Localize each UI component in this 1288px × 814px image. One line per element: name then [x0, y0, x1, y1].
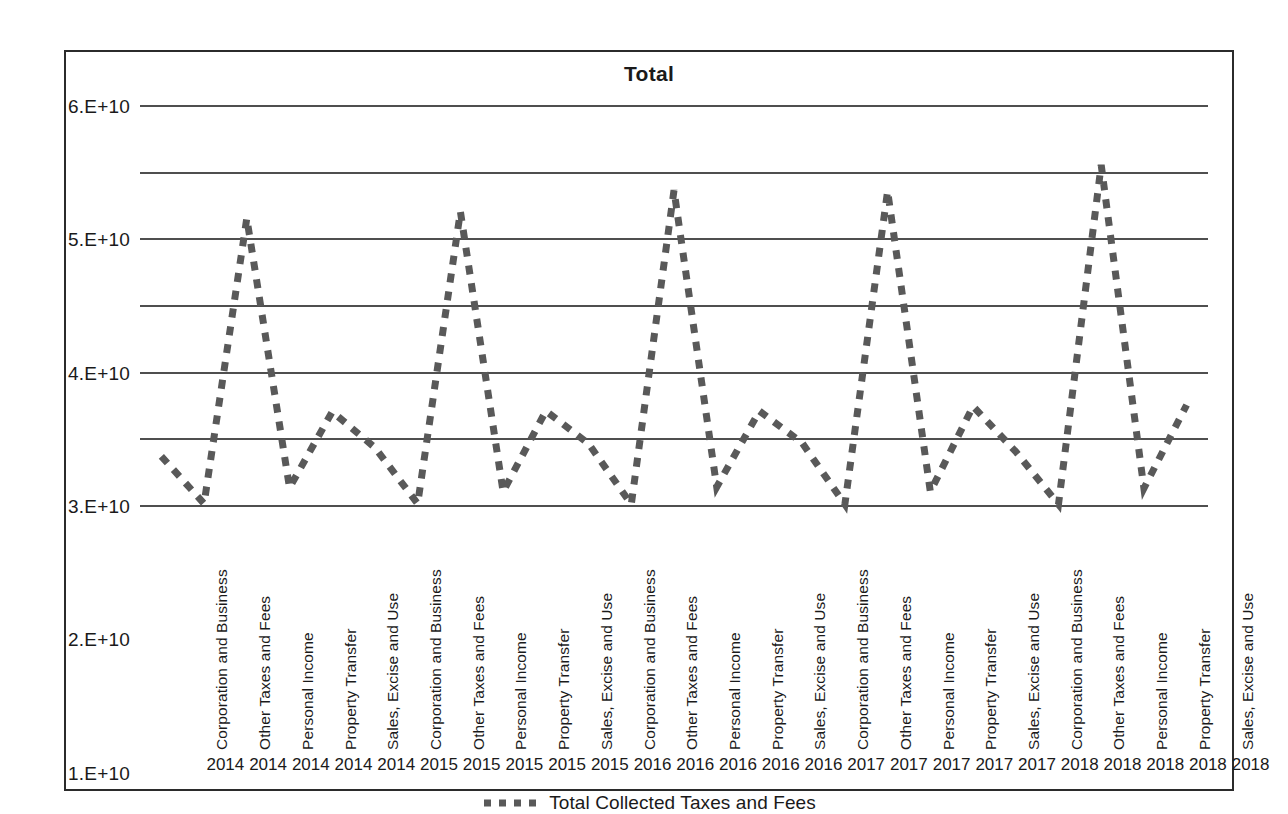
x-axis-category-label: Other Taxes and Fees: [256, 596, 274, 750]
x-axis-category-label: Corporation and Business: [854, 569, 872, 750]
x-axis-category-label: Personal Income: [1153, 632, 1171, 750]
x-axis-year-label: 2017: [1018, 755, 1056, 775]
legend-dash-icon: [482, 797, 540, 809]
x-axis-year-label: 2018: [1232, 755, 1270, 775]
x-axis-category-labels: Corporation and BusinessOther Taxes and …: [204, 560, 1272, 750]
x-axis-year-label: 2018: [1061, 755, 1099, 775]
x-axis-year-label: 2015: [591, 755, 629, 775]
x-axis-category-label: Other Taxes and Fees: [897, 596, 915, 750]
x-axis-year-label: 2014: [335, 755, 373, 775]
x-axis-year-label: 2017: [933, 755, 971, 775]
y-axis-tick-label: 1.E+10: [68, 763, 130, 785]
x-axis-year-label: 2015: [505, 755, 543, 775]
x-axis-year-label: 2014: [206, 755, 244, 775]
series-line-chart: [140, 105, 1208, 505]
plot-area: 0.E+001.E+102.E+103.E+104.E+105.E+106.E+…: [140, 105, 1208, 505]
y-axis-tick-label: 4.E+10: [68, 363, 130, 385]
y-axis-tick-label: 3.E+10: [68, 496, 130, 518]
x-axis-category-label: Sales, Excise and Use: [1239, 593, 1257, 750]
x-axis-category-label: Property Transfer: [1196, 629, 1214, 750]
chart-frame: Total 0.E+001.E+102.E+103.E+104.E+105.E+…: [64, 50, 1234, 791]
x-axis-category-label: Corporation and Business: [213, 569, 231, 750]
x-axis-category-label: Property Transfer: [342, 629, 360, 750]
x-axis-category-label: Sales, Excise and Use: [811, 593, 829, 750]
x-axis-year-label: 2018: [1104, 755, 1142, 775]
x-axis-year-label: 2015: [548, 755, 586, 775]
x-axis-category-label: Corporation and Business: [641, 569, 659, 750]
x-axis-category-label: Personal Income: [299, 632, 317, 750]
x-axis-year-label: 2016: [634, 755, 672, 775]
screenshot-root: Total 0.E+001.E+102.E+103.E+104.E+105.E+…: [0, 0, 1288, 814]
x-axis-year-label: 2017: [890, 755, 928, 775]
gridline: 0.E+00: [140, 505, 1208, 507]
y-axis-tick-label: 6.E+10: [68, 96, 130, 118]
x-axis-year-label: 2014: [377, 755, 415, 775]
x-axis-year-label: 2017: [975, 755, 1013, 775]
x-axis-category-label: Personal Income: [512, 632, 530, 750]
x-axis-category-label: Property Transfer: [555, 629, 573, 750]
x-axis-year-label: 2016: [762, 755, 800, 775]
x-axis-year-labels: 2014201420142014201420152015201520152015…: [204, 755, 1272, 781]
x-axis-year-label: 2015: [420, 755, 458, 775]
x-axis-category-label: Sales, Excise and Use: [598, 593, 616, 750]
x-axis-category-label: Sales, Excise and Use: [384, 593, 402, 750]
legend-label: Total Collected Taxes and Fees: [549, 792, 816, 814]
chart-title: Total: [66, 62, 1232, 86]
x-axis-year-label: 2018: [1146, 755, 1184, 775]
x-axis-year-label: 2014: [292, 755, 330, 775]
x-axis-category-label: Property Transfer: [982, 629, 1000, 750]
chart-legend: Total Collected Taxes and Fees: [66, 792, 1232, 814]
x-axis-category-label: Corporation and Business: [1068, 569, 1086, 750]
x-axis-category-label: Property Transfer: [769, 629, 787, 750]
x-axis-year-label: 2017: [847, 755, 885, 775]
x-axis-category-label: Sales, Excise and Use: [1025, 593, 1043, 750]
x-axis-category-label: Personal Income: [940, 632, 958, 750]
x-axis-year-label: 2016: [805, 755, 843, 775]
y-axis-tick-label: 5.E+10: [68, 229, 130, 251]
x-axis-year-label: 2015: [463, 755, 501, 775]
x-axis-year-label: 2016: [719, 755, 757, 775]
y-axis-tick-label: 2.E+10: [68, 629, 130, 651]
x-axis-year-label: 2016: [676, 755, 714, 775]
x-axis-category-label: Corporation and Business: [427, 569, 445, 750]
x-axis-category-label: Other Taxes and Fees: [470, 596, 488, 750]
x-axis-year-label: 2018: [1189, 755, 1227, 775]
x-axis-year-label: 2014: [249, 755, 287, 775]
x-axis-category-label: Other Taxes and Fees: [683, 596, 701, 750]
series-line: [161, 165, 1186, 504]
x-axis-category-label: Other Taxes and Fees: [1110, 596, 1128, 750]
x-axis-category-label: Personal Income: [726, 632, 744, 750]
